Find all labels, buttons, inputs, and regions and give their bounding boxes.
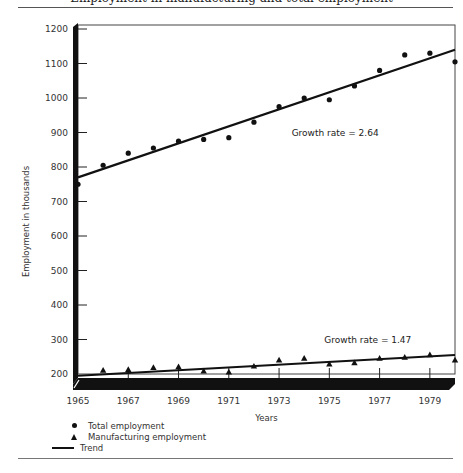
data-point-total [226, 135, 231, 140]
x-tick-label: 1975 [318, 396, 341, 406]
y-tick-label: 1000 [45, 93, 68, 103]
y-tick-label: 900 [51, 128, 68, 138]
data-point-manufacturing [150, 364, 156, 370]
legend-item-total: Total employment [60, 420, 206, 431]
legend-item-manufacturing: Manufacturing employment [60, 431, 206, 442]
y-tick-label: 300 [51, 335, 68, 345]
x-tick-label: 1971 [217, 396, 240, 406]
data-point-manufacturing [301, 355, 307, 361]
data-point-total [377, 68, 382, 73]
data-point-total [151, 145, 156, 150]
y-tick-label: 1200 [45, 24, 68, 34]
data-point-total [251, 120, 256, 125]
x-tick-label: 1969 [167, 396, 190, 406]
data-point-manufacturing [125, 366, 131, 372]
data-point-total [402, 52, 407, 57]
legend-label: Manufacturing employment [88, 432, 206, 442]
data-point-total [101, 163, 106, 168]
data-point-manufacturing [175, 364, 181, 370]
data-point-manufacturing [376, 355, 382, 361]
growth-rate-annotation: Growth rate = 2.64 [292, 128, 379, 138]
y-tick-label: 800 [51, 162, 68, 172]
y-axis-title: Employment in thousands [21, 165, 31, 277]
data-point-total [302, 95, 307, 100]
circle-marker-icon [72, 423, 77, 428]
y-tick-label: 700 [51, 197, 68, 207]
legend-label: Trend [80, 443, 103, 453]
y-tick-label: 500 [51, 266, 68, 276]
x-tick-label: 1967 [117, 396, 140, 406]
plot-frame [78, 25, 455, 374]
data-point-manufacturing [452, 357, 458, 363]
data-point-manufacturing [100, 367, 106, 373]
y-axis-bar [73, 23, 78, 384]
y-tick-label: 400 [51, 300, 68, 310]
x-tick-label: 1979 [418, 396, 441, 406]
legend-label: Total employment [88, 421, 164, 431]
growth-rate-annotation: Growth rate = 1.47 [324, 335, 411, 345]
data-point-manufacturing [276, 357, 282, 363]
y-tick-label: 600 [51, 231, 68, 241]
data-point-total [452, 59, 457, 64]
bottom-divider [18, 458, 453, 459]
data-point-total [276, 104, 281, 109]
data-point-total [75, 182, 80, 187]
data-point-total [352, 83, 357, 88]
triangle-marker-icon [71, 434, 77, 440]
x-tick-label: 1965 [67, 396, 90, 406]
x-tick-label: 1973 [268, 396, 291, 406]
data-point-total [126, 151, 131, 156]
y-tick-label: 1100 [45, 59, 68, 69]
data-point-manufacturing [427, 352, 433, 358]
data-point-total [176, 139, 181, 144]
legend: Total employment Manufacturing employmen… [60, 420, 206, 453]
x-axis-bar [73, 378, 455, 390]
data-point-total [327, 97, 332, 102]
legend-item-trend: Trend [60, 442, 206, 453]
data-point-total [427, 51, 432, 56]
data-point-total [201, 137, 206, 142]
employment-chart: 2003004005006007008009001000110012001965… [0, 0, 463, 473]
trend-line-icon [52, 447, 74, 449]
trend-line [78, 50, 455, 178]
x-axis-title: Years [254, 413, 278, 423]
trend-line [78, 355, 455, 376]
x-tick-label: 1977 [368, 396, 391, 406]
data-point-manufacturing [226, 369, 232, 375]
y-tick-label: 200 [51, 369, 68, 379]
